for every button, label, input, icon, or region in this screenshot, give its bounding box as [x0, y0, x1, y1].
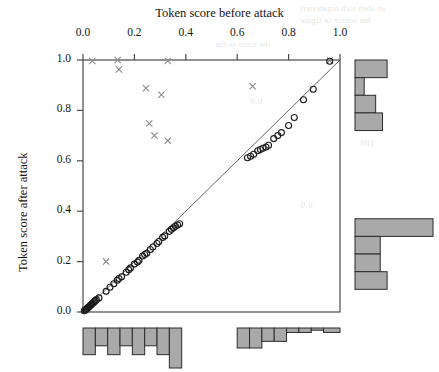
x-histogram-bar — [274, 328, 286, 341]
data-point-cross — [116, 66, 122, 72]
data-point-cross — [165, 58, 171, 64]
y-histogram-bar — [355, 95, 376, 113]
y-histogram-bar — [355, 78, 364, 96]
x-histogram-bar — [262, 328, 274, 341]
series-degraded-markers — [89, 57, 333, 265]
data-point-cross — [103, 259, 109, 265]
x-histogram-bar — [145, 328, 157, 346]
x-histogram-bar — [120, 328, 132, 346]
x-histogram-bar — [169, 328, 181, 368]
x-marginal-histogram — [83, 328, 340, 368]
x-axis-tick-marks — [83, 54, 340, 60]
x-histogram-bar — [299, 328, 311, 332]
series-unchanged-markers — [81, 58, 332, 313]
data-point-circle — [291, 114, 297, 120]
data-point-circle — [310, 86, 316, 92]
data-point-cross — [89, 58, 95, 64]
y-marginal-histogram — [355, 60, 433, 289]
y-histogram-bar — [355, 236, 380, 254]
x-histogram-bar — [287, 328, 299, 332]
plot-canvas — [0, 0, 439, 372]
x-histogram-bar — [95, 328, 107, 346]
y-histogram-bar — [355, 113, 383, 131]
data-point-circle — [301, 97, 307, 103]
data-point-circle — [271, 136, 277, 142]
x-histogram-bar — [324, 328, 340, 332]
y-histogram-bar — [355, 60, 387, 78]
x-histogram-bar — [83, 328, 95, 355]
y-histogram-bar — [355, 219, 433, 237]
data-point-cross — [250, 83, 256, 89]
data-point-cross — [143, 85, 149, 91]
data-point-circle — [286, 123, 292, 129]
x-histogram-bar — [132, 328, 144, 355]
y-histogram-bar — [355, 272, 387, 290]
data-point-cross — [151, 133, 157, 139]
x-histogram-bar — [250, 328, 262, 348]
x-histogram-bar — [237, 328, 249, 348]
x-histogram-bar — [157, 328, 169, 355]
y-axis-tick-marks — [77, 60, 83, 312]
y-histogram-bar — [355, 254, 380, 272]
data-point-cross — [165, 138, 171, 144]
data-point-cross — [158, 92, 164, 98]
scatter-figure-container: an oben sich organisiertbar source in fi… — [0, 0, 439, 372]
data-point-cross — [146, 120, 152, 126]
x-histogram-bar — [108, 328, 120, 355]
x-histogram-bar — [311, 328, 323, 330]
